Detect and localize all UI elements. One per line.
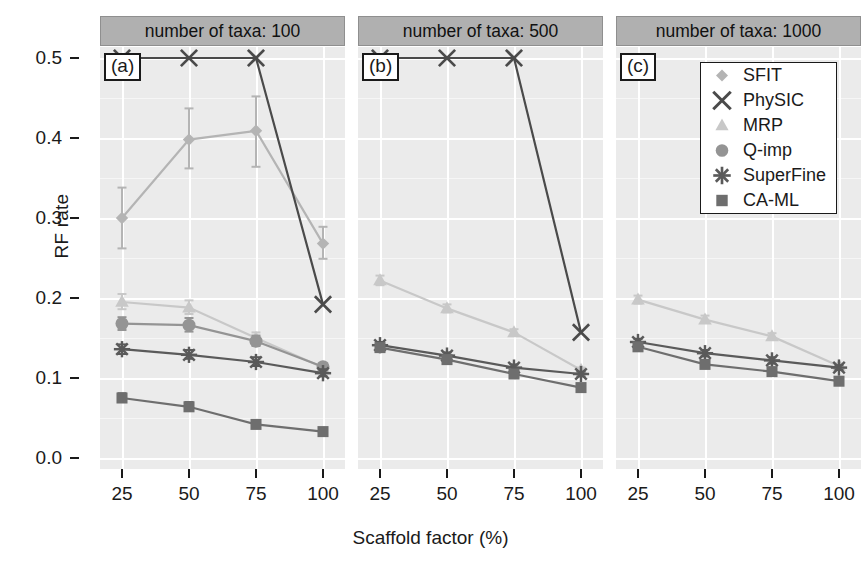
gridline-horizontal <box>358 458 603 460</box>
gridline-horizontal-minor <box>616 418 861 419</box>
x-tick-label: 50 <box>166 483 212 505</box>
y-tick-mark <box>70 57 79 59</box>
legend-label: MRP <box>743 115 783 136</box>
gridline-horizontal-minor <box>358 178 603 179</box>
gridline-vertical <box>514 47 516 469</box>
legend: SFITPhySICMRPQ-impSuperFineCA-ML <box>700 62 837 214</box>
legend-item-sfit: SFIT <box>701 63 836 88</box>
gridline-vertical <box>380 47 382 469</box>
legend-symbol-icon <box>707 88 737 113</box>
gridline-horizontal-minor <box>358 258 603 259</box>
gridline-vertical <box>323 47 325 469</box>
gridline-horizontal <box>616 298 861 300</box>
x-tick-mark <box>580 469 582 478</box>
x-tick-mark <box>704 469 706 478</box>
gridline-horizontal-minor <box>358 338 603 339</box>
x-tick-mark <box>255 469 257 478</box>
y-tick-label: 0.1 <box>0 367 62 389</box>
gridline-horizontal <box>100 458 345 460</box>
panel-strip-title: number of taxa: 500 <box>358 16 603 46</box>
legend-item-superfine: SuperFine <box>701 163 836 188</box>
gridline-horizontal <box>616 218 861 220</box>
legend-symbol-icon <box>707 63 737 88</box>
gridline-vertical <box>839 47 841 469</box>
gridline-vertical <box>189 47 191 469</box>
gridline-horizontal-minor <box>100 258 345 259</box>
x-tick-mark <box>188 469 190 478</box>
y-tick-label: 0.5 <box>0 47 62 69</box>
gridline-horizontal <box>358 298 603 300</box>
gridline-horizontal-minor <box>100 338 345 339</box>
x-tick-label: 75 <box>491 483 537 505</box>
x-tick-label: 50 <box>682 483 728 505</box>
legend-label: SFIT <box>743 65 782 86</box>
panel-strip-title: number of taxa: 1000 <box>616 16 861 46</box>
x-tick-mark <box>838 469 840 478</box>
y-tick-label: 0.4 <box>0 127 62 149</box>
panel-label: (c) <box>620 53 656 81</box>
panel-strip-title: number of taxa: 100 <box>100 16 345 46</box>
gridline-vertical <box>447 47 449 469</box>
x-tick-mark <box>771 469 773 478</box>
x-tick-label: 75 <box>233 483 279 505</box>
panel-label: (a) <box>104 53 141 81</box>
legend-label: PhySIC <box>743 90 804 111</box>
x-tick-label: 25 <box>357 483 403 505</box>
y-tick-mark <box>70 297 79 299</box>
x-tick-mark <box>446 469 448 478</box>
legend-label: CA-ML <box>743 190 799 211</box>
legend-symbol-icon <box>707 138 737 163</box>
x-tick-label: 100 <box>300 483 346 505</box>
gridline-horizontal-minor <box>100 418 345 419</box>
legend-symbol-icon <box>707 188 737 213</box>
x-tick-label: 50 <box>424 483 470 505</box>
gridline-horizontal-minor <box>100 178 345 179</box>
x-tick-mark <box>322 469 324 478</box>
gridline-vertical <box>581 47 583 469</box>
x-tick-label: 75 <box>749 483 795 505</box>
gridline-horizontal <box>616 458 861 460</box>
x-tick-label: 25 <box>615 483 661 505</box>
gridline-horizontal-minor <box>358 418 603 419</box>
x-tick-label: 25 <box>99 483 145 505</box>
gridline-horizontal <box>616 378 861 380</box>
x-tick-mark <box>121 469 123 478</box>
legend-symbol-icon <box>707 113 737 138</box>
x-tick-mark <box>637 469 639 478</box>
gridline-horizontal <box>358 138 603 140</box>
y-tick-mark <box>70 217 79 219</box>
gridline-vertical <box>638 47 640 469</box>
gridline-horizontal <box>100 378 345 380</box>
x-tick-mark <box>379 469 381 478</box>
y-tick-label: 0.3 <box>0 207 62 229</box>
legend-symbol-icon <box>707 163 737 188</box>
legend-item-physic: PhySIC <box>701 88 836 113</box>
y-tick-mark <box>70 377 79 379</box>
y-tick-label: 0.0 <box>0 447 62 469</box>
gridline-horizontal-minor <box>358 98 603 99</box>
chart-panel <box>358 47 603 469</box>
figure-canvas: RF rate Scaffold factor (%) 0.00.10.20.3… <box>0 0 861 567</box>
x-axis-label: Scaffold factor (%) <box>0 527 861 549</box>
x-tick-label: 100 <box>558 483 604 505</box>
gridline-horizontal <box>358 378 603 380</box>
gridline-horizontal-minor <box>100 98 345 99</box>
gridline-horizontal <box>100 298 345 300</box>
gridline-horizontal <box>100 218 345 220</box>
x-tick-label: 100 <box>816 483 861 505</box>
gridline-vertical <box>122 47 124 469</box>
y-tick-mark <box>70 137 79 139</box>
legend-item-q-imp: Q-imp <box>701 138 836 163</box>
gridline-horizontal <box>358 218 603 220</box>
legend-item-mrp: MRP <box>701 113 836 138</box>
y-tick-label: 0.2 <box>0 287 62 309</box>
legend-item-ca-ml: CA-ML <box>701 188 836 213</box>
chart-panel <box>100 47 345 469</box>
gridline-vertical <box>256 47 258 469</box>
gridline-horizontal <box>100 138 345 140</box>
y-tick-mark <box>70 457 79 459</box>
gridline-horizontal-minor <box>616 338 861 339</box>
legend-label: Q-imp <box>743 140 792 161</box>
gridline-horizontal-minor <box>616 258 861 259</box>
panel-label: (b) <box>362 53 399 81</box>
